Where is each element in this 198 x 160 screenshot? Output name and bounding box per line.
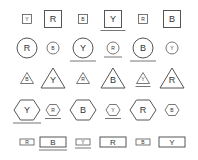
shape-letter: Y — [111, 107, 115, 113]
shape-letter: Y — [50, 75, 56, 85]
shape-letter: R — [51, 107, 55, 113]
shape-letter: Y — [169, 138, 175, 147]
rectangle-shape-y: Y — [159, 137, 185, 147]
shape-letter: B — [140, 43, 146, 53]
shape-letter: B — [110, 75, 116, 85]
rectangle-shape-r: R — [100, 137, 126, 147]
rectangle-shape-r: R — [20, 139, 34, 145]
circle-shape-y: Y — [166, 42, 178, 54]
circle-shape-b: B — [130, 38, 156, 61]
circle-shape-y: Y — [70, 38, 96, 61]
shape-letter: Y — [25, 16, 29, 22]
hexagon-shape-b: B — [70, 100, 96, 120]
shape-letter: B — [170, 107, 174, 113]
triangle-shape-r: R — [160, 68, 184, 88]
rectangle-shape-y: Y — [75, 139, 91, 148]
shape-letter: B — [25, 76, 29, 82]
shape-letter: B — [169, 14, 175, 24]
shape-letter: B — [81, 16, 85, 22]
shape-letter: B — [141, 139, 145, 145]
triangle-shape-b: B — [101, 68, 125, 88]
circle-shape-r: R — [17, 38, 37, 58]
triangle-shape-b: B — [21, 73, 34, 84]
rectangle-shape-b: B — [136, 139, 150, 145]
hexagon-shape-r: R — [130, 100, 156, 120]
hexagon-shape-y: Y — [105, 105, 121, 119]
shape-letter: R — [81, 76, 85, 82]
shape-letter: B — [50, 138, 55, 147]
row-rectangle: RBYRBY — [20, 137, 185, 150]
shape-letter: R — [25, 139, 29, 145]
shape-letter: R — [169, 75, 176, 85]
row-circle: RBYRBY — [17, 38, 178, 61]
hexagon-shape-y: Y — [13, 100, 41, 123]
shape-letter: B — [51, 45, 55, 51]
square-shape-y: Y — [101, 11, 126, 31]
shape-letter: R — [110, 138, 116, 147]
circle-shape-b: B — [47, 42, 59, 54]
square-shape-b: B — [164, 11, 181, 28]
square-shape-y: Y — [23, 15, 32, 24]
square-shape-r: R — [45, 11, 62, 28]
shape-letter: R — [111, 45, 115, 51]
shape-letter: Y — [110, 14, 116, 24]
shape-letter: Y — [141, 76, 145, 82]
rectangle-shape-b: B — [39, 137, 67, 150]
row-triangle: BYRBYR — [21, 68, 185, 88]
shape-letter: Y — [170, 45, 174, 51]
shape-letter: B — [80, 105, 86, 115]
shape-grid: YRBYRBRBYRBYBYRBYRYRBYRBRBYRBY — [0, 0, 198, 160]
shape-letter: R — [141, 16, 145, 22]
circle-shape-r: R — [104, 42, 122, 57]
shape-letter: Y — [24, 105, 30, 115]
shape-letter: Y — [81, 139, 85, 145]
triangle-shape-y: Y — [41, 68, 65, 88]
shape-letter: Y — [80, 43, 86, 53]
hexagon-shape-r: R — [45, 105, 61, 119]
square-shape-b: B — [79, 15, 88, 24]
row-hexagon: YRBYRB — [13, 100, 179, 123]
triangle-shape-y: Y — [136, 73, 151, 87]
hexagon-shape-b: B — [165, 105, 179, 116]
triangle-shape-r: R — [77, 73, 90, 84]
square-shape-r: R — [139, 15, 148, 24]
shape-letter: R — [140, 105, 147, 115]
row-square: YRBYRB — [23, 11, 181, 31]
shape-letter: R — [50, 14, 57, 24]
shape-letter: R — [24, 43, 31, 53]
